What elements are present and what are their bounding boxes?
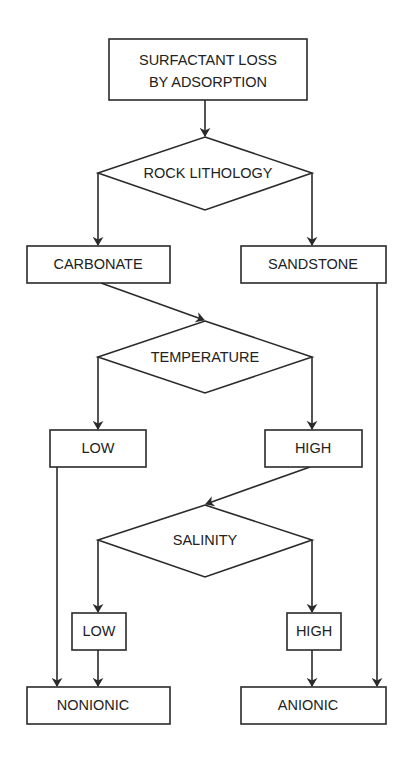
arrow-high-to-salinity — [206, 467, 310, 504]
start-box: SURFACTANT LOSS BY ADSORPTION — [109, 39, 307, 100]
temperature-decision: TEMPERATURE — [98, 321, 312, 393]
temperature-label: TEMPERATURE — [151, 349, 260, 365]
start-label-line1: SURFACTANT LOSS — [139, 52, 277, 68]
temp-high-box: HIGH — [265, 430, 362, 467]
anionic-box: ANIONIC — [241, 687, 386, 724]
flowchart: SURFACTANT LOSS BY ADSORPTION ROCK LITHO… — [0, 0, 408, 763]
carbonate-box: CARBONATE — [27, 246, 170, 283]
lithology-label: ROCK LITHOLOGY — [144, 165, 273, 181]
carbonate-label: CARBONATE — [53, 256, 142, 272]
anionic-label: ANIONIC — [278, 697, 338, 713]
start-label-line2: BY ADSORPTION — [149, 74, 267, 90]
nonionic-box: NONIONIC — [27, 687, 170, 724]
sal-low-label: LOW — [82, 623, 115, 639]
sal-high-box: HIGH — [287, 613, 341, 650]
salinity-decision: SALINITY — [98, 505, 312, 577]
temp-low-label: LOW — [81, 440, 114, 456]
lithology-decision: ROCK LITHOLOGY — [98, 137, 312, 210]
temp-high-label: HIGH — [295, 440, 331, 456]
salinity-label: SALINITY — [173, 532, 238, 548]
sal-low-box: LOW — [72, 613, 126, 650]
nonionic-label: NONIONIC — [57, 697, 130, 713]
sandstone-box: SANDSTONE — [241, 246, 386, 283]
temp-low-box: LOW — [50, 430, 146, 467]
sandstone-label: SANDSTONE — [268, 256, 358, 272]
sal-high-label: HIGH — [296, 623, 332, 639]
arrow-carbonate-to-temperature — [101, 283, 204, 320]
